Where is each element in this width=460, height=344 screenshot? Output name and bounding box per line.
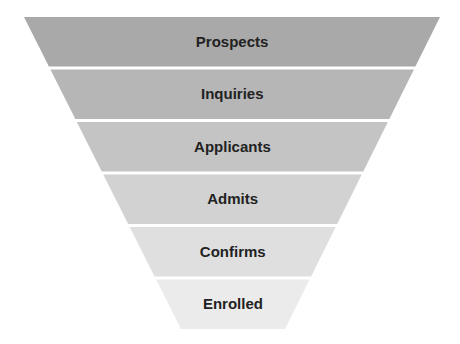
funnel-stage-inquiries: Inquiries xyxy=(50,70,414,120)
funnel-stage-prospects: Prospects xyxy=(24,17,440,67)
funnel-stage-enrolled: Enrolled xyxy=(156,280,310,330)
funnel-stage-admits: Admits xyxy=(103,175,362,225)
stage-label: Admits xyxy=(207,190,258,207)
stage-label: Applicants xyxy=(194,138,271,155)
stage-label: Prospects xyxy=(196,33,269,50)
funnel-stage-applicants: Applicants xyxy=(77,122,388,172)
stage-label: Inquiries xyxy=(201,85,264,102)
stage-label: Confirms xyxy=(200,243,266,260)
enrollment-funnel: Prospects Inquiries Applicants Admits Co… xyxy=(0,0,460,344)
funnel-stage-confirms: Confirms xyxy=(130,227,336,277)
stage-label: Enrolled xyxy=(203,295,263,312)
